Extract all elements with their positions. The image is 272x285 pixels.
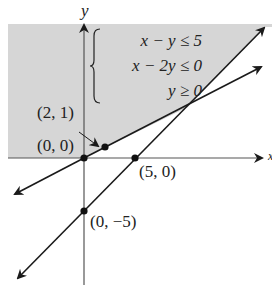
label-point-2-1: (2, 1) — [37, 104, 74, 121]
x-axis-label: x — [268, 150, 272, 162]
point-2-1 — [101, 143, 108, 150]
brace-icon — [90, 28, 102, 104]
inequality-2: x − 2y ≤ 0 — [96, 53, 202, 78]
inequality-system: x − y ≤ 5 x − 2y ≤ 0 y ≥ 0 — [96, 28, 202, 103]
y-axis-label: y — [81, 2, 89, 19]
inequality-1: x − y ≤ 5 — [96, 28, 202, 53]
point-5-0 — [131, 154, 138, 161]
inequality-3: y ≥ 0 — [96, 78, 202, 103]
line-x-minus-y-5-lower — [18, 211, 84, 278]
label-point-0-0: (0, 0) — [37, 137, 74, 154]
label-point-5-0: (5, 0) — [139, 163, 176, 180]
line-x-minus-2y-0-lower — [15, 158, 84, 194]
label-point-0-m5: (0, −5) — [90, 213, 136, 230]
point-0-m5 — [80, 207, 87, 214]
point-0-0 — [80, 154, 87, 161]
